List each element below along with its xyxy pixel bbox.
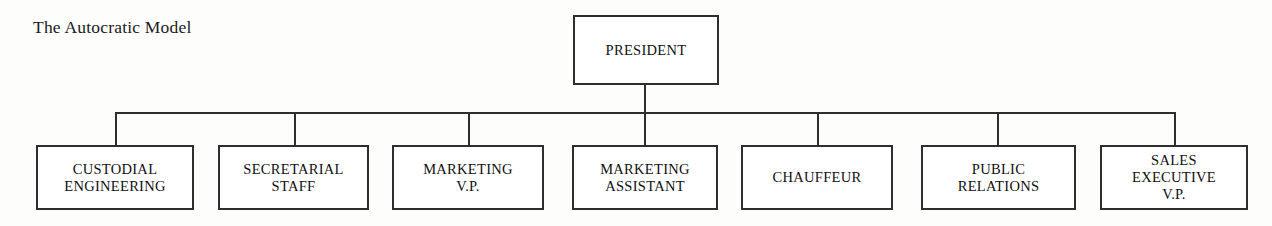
node-label-line: ASSISTANT: [605, 178, 685, 195]
node-label-line: CUSTODIAL: [73, 161, 158, 178]
node-label-line: RELATIONS: [958, 178, 1040, 195]
node-sales-executive-vp[interactable]: SALES EXECUTIVE V.P.: [1100, 145, 1248, 210]
node-president[interactable]: PRESIDENT: [573, 15, 719, 85]
org-chart-canvas: The Autocratic Model PRESIDENT CUSTODIAL…: [0, 0, 1272, 226]
node-label-line: MARKETING: [600, 161, 690, 178]
connector-drop-public-relations: [997, 112, 999, 145]
node-label-line: PUBLIC: [972, 161, 1025, 178]
node-label-line: ENGINEERING: [64, 178, 166, 195]
connector-horizontal-bus: [115, 112, 1176, 114]
node-label-line: PRESIDENT: [606, 42, 687, 59]
node-label-line: V.P.: [456, 178, 480, 195]
node-marketing-assistant[interactable]: MARKETING ASSISTANT: [572, 145, 718, 210]
node-public-relations[interactable]: PUBLIC RELATIONS: [921, 145, 1076, 210]
node-marketing-vp[interactable]: MARKETING V.P.: [392, 145, 544, 210]
node-custodial-engineering[interactable]: CUSTODIAL ENGINEERING: [36, 145, 194, 210]
node-label-line: V.P.: [1162, 186, 1186, 203]
node-label-line: SALES: [1151, 152, 1197, 169]
connector-drop-sales-executive-vp: [1174, 112, 1176, 145]
connector-drop-secretarial-staff: [294, 112, 296, 145]
connector-drop-marketing-vp: [468, 112, 470, 145]
node-label-line: SECRETARIAL: [243, 161, 343, 178]
connector-drop-chauffeur: [817, 112, 819, 145]
node-secretarial-staff[interactable]: SECRETARIAL STAFF: [218, 145, 369, 210]
node-label-line: STAFF: [272, 178, 316, 195]
node-label-line: MARKETING: [423, 161, 513, 178]
connector-drop-custodial-engineering: [115, 112, 117, 145]
node-chauffeur[interactable]: CHAUFFEUR: [741, 145, 893, 210]
node-label-line: CHAUFFEUR: [773, 169, 862, 186]
connector-president-stem: [644, 85, 646, 145]
page-title: The Autocratic Model: [33, 17, 192, 37]
node-label-line: EXECUTIVE: [1132, 169, 1216, 186]
